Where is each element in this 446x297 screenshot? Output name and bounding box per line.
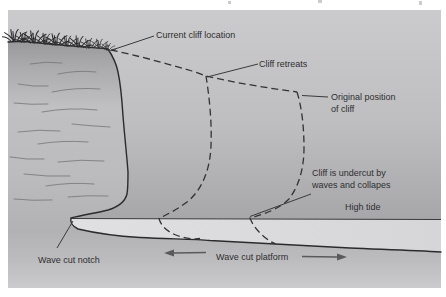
page: Current cliff location Cliff retreats Or… (0, 0, 446, 297)
label-cliff-retreats: Cliff retreats (259, 59, 308, 69)
label-undercut-line2: waves and collapes (311, 180, 391, 190)
cliff-body (8, 41, 128, 230)
label-current-cliff-location: Current cliff location (156, 30, 235, 40)
label-wave-cut-notch: Wave cut notch (38, 255, 100, 265)
label-original-position-line1: Original position (331, 92, 396, 102)
label-original-position-line2: of cliff (331, 104, 355, 114)
label-undercut-line1: Cliff is undercut by (312, 168, 386, 178)
coastal-erosion-diagram: Current cliff location Cliff retreats Or… (0, 0, 446, 297)
label-high-tide: High tide (345, 202, 381, 212)
label-wave-cut-platform: Wave cut platform (216, 252, 288, 262)
cropped-text-fragments (228, 0, 422, 5)
